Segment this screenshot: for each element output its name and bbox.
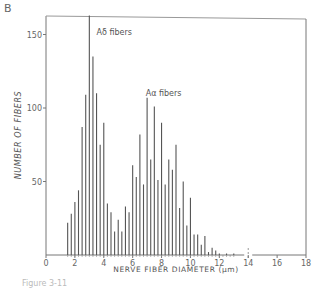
annotation-label: Aα fibers (146, 89, 182, 98)
y-tick-label: 150 (27, 31, 42, 40)
y-tick-label: 50 (32, 178, 42, 187)
x-tick-label: 0 (43, 259, 48, 268)
y-axis-ticks: 50100150 (27, 31, 46, 187)
x-tick-label: 14 (243, 259, 253, 268)
figure-caption: Figure 3-11 (22, 279, 67, 288)
x-tick-label: 4 (101, 259, 106, 268)
histogram-chart: 024681012141618 50100150 NERVE FIBER DIA… (0, 0, 315, 289)
annotation-label: Aδ fibers (97, 28, 132, 37)
x-tick-label: 2 (72, 259, 77, 268)
y-axis-label: NUMBER OF FIBERS (14, 91, 23, 180)
bars (68, 15, 234, 255)
x-tick-label: 16 (272, 259, 282, 268)
annotations: Aδ fibersAα fibers (97, 28, 182, 99)
x-axis-label: NERVE FIBER DIAMETER (μm) (113, 265, 239, 274)
y-tick-label: 100 (27, 104, 42, 113)
x-tick-label: 18 (301, 259, 311, 268)
